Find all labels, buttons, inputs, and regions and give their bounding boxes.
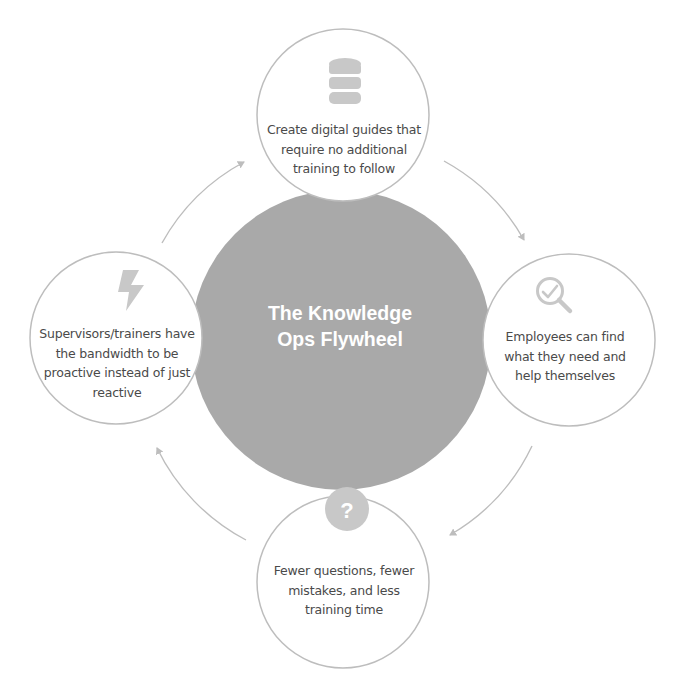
node-bottom-line: training time: [257, 600, 431, 620]
node-right-line: what they need and: [480, 347, 650, 367]
flywheel-diagram: ? The Knowledge Ops Flywheel Create digi…: [0, 0, 681, 698]
title-line-2: Ops Flywheel: [190, 326, 490, 352]
node-left-line: Supervisors/trainers have: [30, 324, 204, 344]
node-left-line: reactive: [30, 383, 204, 403]
node-top-line: require no additional: [258, 140, 430, 160]
node-bottom-text: Fewer questions, fewer mistakes, and les…: [257, 561, 431, 620]
arrow-right-to-bottom: [450, 446, 532, 535]
node-left-line: the bandwidth to be: [30, 344, 204, 364]
node-bottom-line: Fewer questions, fewer: [257, 561, 431, 581]
node-right-line: help themselves: [480, 366, 650, 386]
node-right-line: Employees can find: [480, 327, 650, 347]
node-right-text: Employees can find what they need and he…: [480, 327, 650, 386]
node-top-text: Create digital guides that require no ad…: [258, 120, 430, 179]
node-left-text: Supervisors/trainers have the bandwidth …: [30, 324, 204, 402]
database-icon: [329, 58, 361, 104]
node-top-line: training to follow: [258, 159, 430, 179]
svg-text:?: ?: [340, 498, 353, 523]
arrow-bottom-to-left: [157, 448, 246, 540]
question-circle-icon: ?: [325, 487, 369, 531]
node-top-line: Create digital guides that: [258, 120, 430, 140]
diagram-title: The Knowledge Ops Flywheel: [190, 300, 490, 352]
node-bottom-line: mistakes, and less: [257, 581, 431, 601]
arrow-top-to-right: [444, 161, 524, 240]
arrow-left-to-top: [162, 162, 244, 243]
node-left-line: proactive instead of just: [30, 363, 204, 383]
title-line-1: The Knowledge: [190, 300, 490, 326]
